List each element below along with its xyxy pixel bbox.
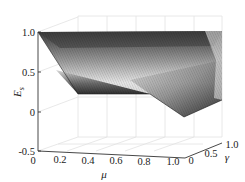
z-tick: 1.0 (22, 27, 35, 38)
surface (38, 31, 222, 117)
y-axis-label: γ (225, 151, 230, 163)
x-tick: 0.4 (81, 155, 95, 166)
y-tick-labels: 0 0.5 1.0 (188, 139, 238, 166)
y-tick: 0 (188, 155, 193, 166)
x-tick: 0 (30, 155, 35, 166)
surface-plot: 1.0 0.5 0 -0.5 0 0.2 0.4 0.6 0.8 1.0 0 0… (0, 0, 245, 182)
x-tick-labels: 0 0.2 0.4 0.6 0.8 1.0 (30, 154, 179, 167)
z-axis-label: Es (11, 87, 26, 98)
z-tick: 0.5 (22, 67, 35, 78)
x-tick: 0.6 (109, 155, 122, 166)
x-tick: 0.2 (53, 154, 66, 165)
y-tick: 0.5 (204, 148, 217, 159)
svg-text:Es: Es (11, 87, 26, 98)
x-axis-label: μ (100, 168, 107, 180)
y-tick: 1.0 (225, 139, 238, 150)
z-tick: 0 (30, 107, 35, 118)
x-tick: 0.8 (137, 156, 150, 167)
z-axis-label-sub: s (17, 87, 26, 90)
x-tick: 1.0 (166, 156, 179, 167)
